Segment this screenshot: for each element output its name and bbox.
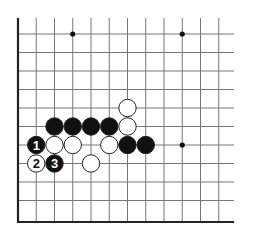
star-point-icon	[180, 142, 185, 147]
black-stone[interactable]: 3	[46, 155, 63, 172]
star-point-icon	[180, 31, 185, 36]
white-stone[interactable]: 2	[28, 155, 45, 172]
move-number-label: 2	[33, 156, 40, 171]
white-stone[interactable]	[119, 99, 136, 116]
white-stone[interactable]	[82, 155, 99, 172]
black-stone[interactable]	[46, 118, 63, 135]
go-board[interactable]: 123	[0, 0, 253, 232]
black-stone[interactable]	[82, 118, 99, 135]
white-stone[interactable]	[64, 136, 81, 153]
move-number-label: 3	[51, 156, 58, 171]
white-stone[interactable]	[46, 136, 63, 153]
white-stone[interactable]	[119, 118, 136, 135]
black-stone[interactable]	[137, 136, 154, 153]
move-number-label: 1	[33, 138, 40, 153]
star-point-icon	[70, 31, 75, 36]
white-stone[interactable]	[101, 136, 118, 153]
black-stone[interactable]	[101, 118, 118, 135]
black-stone[interactable]	[119, 136, 136, 153]
black-stone[interactable]	[64, 118, 81, 135]
black-stone[interactable]: 1	[28, 136, 45, 153]
